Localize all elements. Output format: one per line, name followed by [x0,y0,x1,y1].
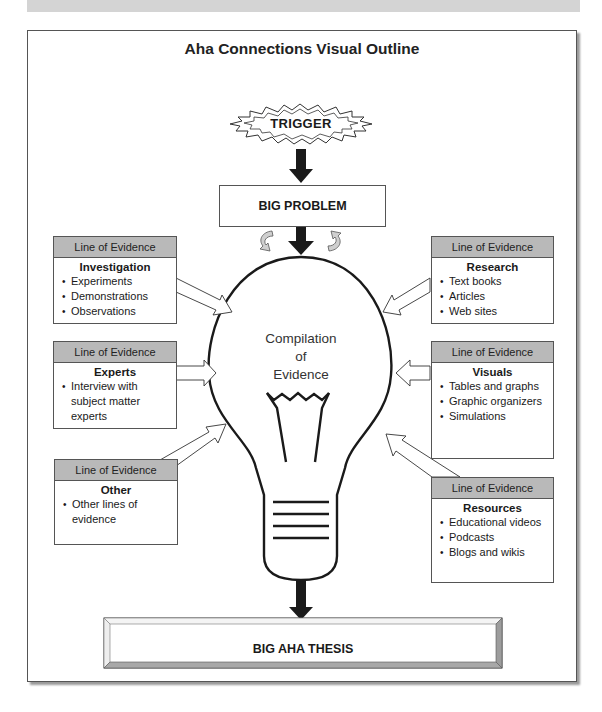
evidence-list: Text books Articles Web sites [432,274,553,319]
evidence-item: Experiments [62,274,172,289]
evidence-item: Articles [440,289,549,304]
evidence-title: Investigation [54,261,176,273]
arrow-hollow-icon [383,278,430,315]
trigger-label: TRIGGER [246,116,356,131]
evidence-item: Text books [440,274,549,289]
evidence-header: Line of Evidence [55,460,177,481]
arrow-down-icon [288,225,314,255]
evidence-header: Line of Evidence [54,237,176,258]
bulb-text: Compilation of Evidence [246,330,356,384]
arrow-hollow-icon [176,278,232,315]
evidence-list: Tables and graphs Graphic organizers Sim… [432,379,553,424]
arrow-hollow-icon [396,360,430,386]
evidence-list: Other lines of evidence [55,497,177,527]
evidence-box-investigation: Line of Evidence Investigation Experimen… [53,236,177,324]
cycle-arrow-right-icon [328,231,341,251]
evidence-title: Experts [54,366,176,378]
evidence-item: Observations [62,304,172,319]
evidence-title: Other [55,484,177,496]
evidence-header: Line of Evidence [432,342,553,363]
evidence-box-visuals: Line of Evidence Visuals Tables and grap… [431,341,554,459]
cycle-arrow-left-icon [260,231,273,251]
evidence-item: Web sites [440,304,549,319]
evidence-list: Interview with subject matter experts [54,379,176,424]
evidence-title: Resources [432,502,553,514]
evidence-title: Visuals [432,366,553,378]
lightbulb-icon [209,257,392,580]
evidence-item: Educational videos [440,515,549,530]
bulb-text-line: of [246,348,356,366]
big-problem-box: BIG PROBLEM [219,185,386,227]
evidence-box-research: Line of Evidence Research Text books Art… [431,236,554,324]
evidence-item: Tables and graphs [440,379,549,394]
evidence-item: Blogs and wikis [440,545,549,560]
evidence-header: Line of Evidence [432,478,553,499]
evidence-item: Other lines of evidence [63,497,173,527]
evidence-header: Line of Evidence [54,342,176,363]
evidence-title: Research [432,261,553,273]
arrow-down-icon [289,149,313,183]
evidence-header: Line of Evidence [432,237,553,258]
evidence-list: Educational videos Podcasts Blogs and wi… [432,515,553,560]
evidence-item: Simulations [440,409,549,424]
big-aha-thesis-label: BIG AHA THESIS [104,642,502,656]
evidence-item: Podcasts [440,530,549,545]
evidence-item: Interview with subject matter experts [62,379,172,424]
bulb-text-line: Compilation [246,330,356,348]
evidence-box-other: Line of Evidence Other Other lines of ev… [54,459,178,545]
arrow-down-icon [289,581,313,620]
evidence-item: Demonstrations [62,289,172,304]
evidence-box-experts: Line of Evidence Experts Interview with … [53,341,177,429]
evidence-box-resources: Line of Evidence Resources Educational v… [431,477,554,583]
evidence-list: Experiments Demonstrations Observations [54,274,176,319]
evidence-item: Graphic organizers [440,394,549,409]
bulb-text-line: Evidence [246,366,356,384]
